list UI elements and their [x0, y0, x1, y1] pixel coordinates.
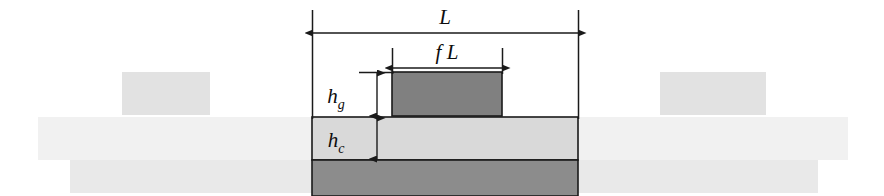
faded-left-substrate	[70, 160, 312, 193]
grating-height-dimension-group: hg	[327, 73, 394, 117]
faded-right-substrate	[578, 160, 818, 193]
cladding-layer	[312, 117, 578, 160]
period-label: L	[438, 5, 451, 29]
ridge-width-dimension-group: f L	[393, 40, 503, 74]
faded-right-grating-ridge	[660, 72, 766, 115]
period-cell	[312, 72, 578, 196]
faded-left-structure	[38, 72, 312, 193]
cladding-height-symbol: h	[328, 128, 339, 152]
diagram-canvas: L f L hg hc	[0, 0, 884, 196]
substrate-layer	[312, 160, 578, 196]
cladding-height-subscript: c	[338, 141, 345, 156]
grating-ridge	[392, 72, 502, 116]
grating-cross-section-figure: L f L hg hc	[0, 0, 884, 196]
faded-right-structure	[578, 72, 848, 193]
grating-height-subscript: g	[338, 97, 345, 112]
faded-left-cladding	[38, 117, 312, 160]
grating-height-label: hg	[327, 84, 345, 112]
faded-left-grating-ridge	[122, 72, 210, 115]
faded-right-cladding	[578, 117, 848, 160]
ridge-width-label: f L	[436, 40, 459, 64]
grating-height-symbol: h	[327, 84, 338, 108]
